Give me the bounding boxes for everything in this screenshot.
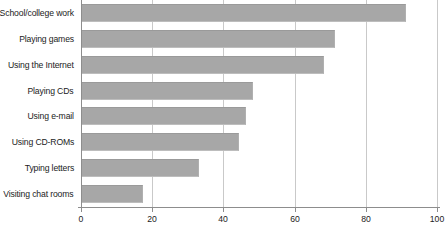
x-axis-tick-label: 20: [147, 214, 157, 224]
x-axis-tick-label: 100: [430, 214, 444, 224]
category-label: Visiting chat rooms: [4, 185, 74, 203]
category-label: School/college work: [0, 4, 74, 22]
bar: [82, 159, 199, 177]
gridline: [366, 0, 367, 207]
x-axis-tick: [81, 208, 82, 212]
category-label: Using e-mail: [28, 107, 74, 125]
category-label: Using the Internet: [8, 56, 74, 74]
bar: [82, 133, 239, 151]
bar: [82, 56, 324, 74]
x-axis-tick: [295, 208, 296, 212]
x-axis-tick: [152, 208, 153, 212]
gridline: [437, 0, 438, 207]
plot-area: 020406080100: [81, 0, 437, 207]
x-axis-tick-label: 0: [79, 214, 84, 224]
x-axis-line: [78, 207, 440, 208]
category-label: Playing games: [19, 30, 74, 48]
bar-chart: School/college workPlaying gamesUsing th…: [0, 0, 447, 234]
category-label: Playing CDs: [28, 82, 74, 100]
x-axis-tick: [437, 208, 438, 212]
bar: [82, 185, 143, 203]
bar: [82, 4, 406, 22]
bar: [82, 30, 335, 48]
bar: [82, 107, 246, 125]
category-label: Typing letters: [25, 159, 74, 177]
x-axis-tick-label: 40: [219, 214, 229, 224]
category-labels-axis: School/college workPlaying gamesUsing th…: [0, 0, 78, 207]
x-axis-tick-label: 80: [361, 214, 371, 224]
x-axis-tick: [223, 208, 224, 212]
x-axis-tick-label: 60: [290, 214, 300, 224]
category-label: Using CD-ROMs: [11, 133, 74, 151]
bar: [82, 82, 253, 100]
x-axis-tick: [366, 208, 367, 212]
